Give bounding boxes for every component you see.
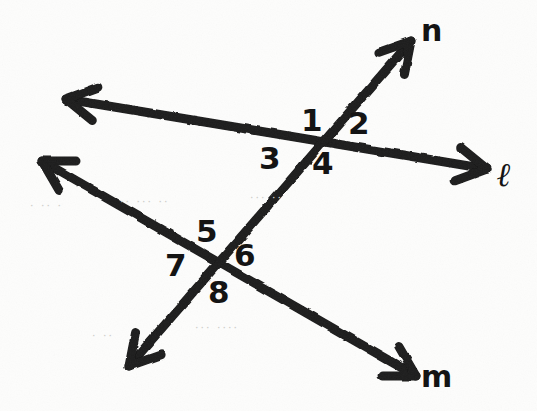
- angle-1-label: 1: [301, 105, 322, 136]
- ghost-2: ·· ··· ··: [120, 196, 169, 209]
- figure-canvas: [0, 0, 537, 411]
- angle-5-label: 5: [196, 216, 217, 247]
- ghost-5: · ··: [92, 330, 114, 343]
- ghost-1: · ·· ·: [30, 200, 63, 213]
- angle-4-label: 4: [312, 148, 333, 179]
- angle-3-label: 3: [259, 143, 280, 174]
- line-m-name-label: m: [421, 362, 452, 392]
- angle-8-label: 8: [208, 277, 229, 308]
- line-ell-name-label: ℓ: [497, 158, 511, 191]
- ghost-3: ··· ··: [250, 192, 283, 205]
- geometry-figure: · ·· ··· ··· ····· ····· ····· ·· 123456…: [0, 0, 537, 411]
- ghost-4: ··· ····: [195, 322, 239, 335]
- line-n-name-label: n: [421, 16, 442, 46]
- angle-7-label: 7: [165, 250, 186, 281]
- paper-grain-overlay: [0, 0, 537, 411]
- angle-6-label: 6: [234, 240, 255, 271]
- angle-2-label: 2: [348, 108, 369, 139]
